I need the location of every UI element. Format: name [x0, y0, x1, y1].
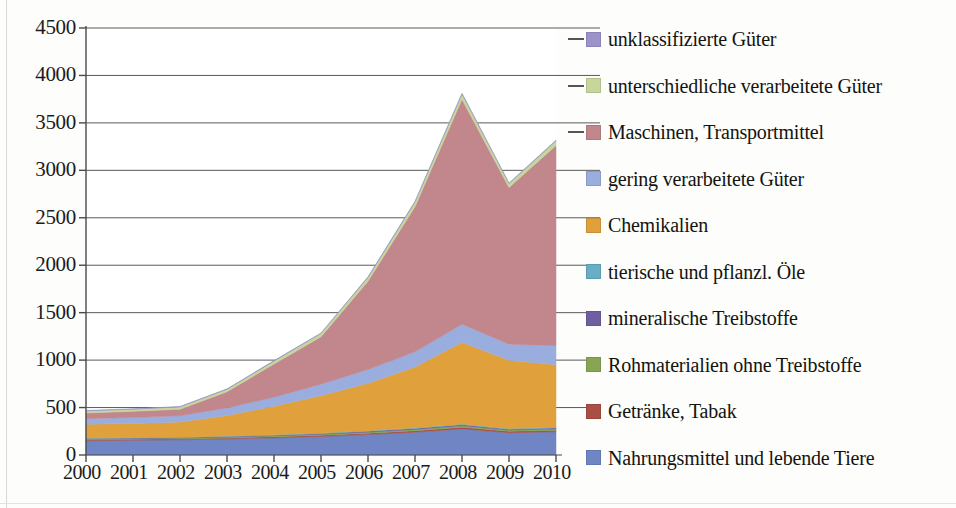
legend-item-label: Maschinen, Transportmittel [608, 122, 824, 142]
y-axis-label: 1500 [14, 302, 76, 323]
y-axis-label: 500 [14, 397, 76, 418]
legend-color-swatch [586, 171, 601, 186]
legend-color-swatch [586, 32, 601, 47]
legend-color-swatch [586, 404, 601, 419]
plot-area [0, 0, 600, 480]
x-axis-label: 2009 [486, 462, 524, 482]
legend-item[interactable]: Nahrungsmittel und lebende Tiere [586, 445, 874, 471]
y-axis-label: 3500 [14, 112, 76, 133]
legend-item[interactable]: unklassifizierte Güter [586, 26, 776, 52]
x-axis-label: 2003 [204, 462, 242, 482]
legend-leader-line [568, 85, 584, 87]
legend-item-label: gering verarbeitete Güter [608, 169, 804, 189]
y-axis-label: 1000 [14, 349, 76, 370]
legend-item-label: Chemikalien [608, 215, 708, 235]
chart-page: 450040003500300025002000150010005000 200… [0, 0, 956, 508]
y-axis-label: 3000 [14, 159, 76, 180]
legend-item-label: tierische und pflanzl. Öle [608, 262, 805, 282]
y-axis-label: 4000 [14, 64, 76, 85]
legend-item-label: unklassifizierte Güter [608, 29, 776, 49]
x-axis-label: 2001 [110, 462, 148, 482]
legend-color-swatch [586, 357, 601, 372]
legend-item[interactable]: mineralische Treibstoffe [586, 305, 798, 331]
x-axis-label: 2005 [298, 462, 336, 482]
legend-item-label: mineralische Treibstoffe [608, 308, 798, 328]
legend-item[interactable]: gering verarbeitete Güter [586, 166, 804, 192]
legend-color-swatch [586, 311, 601, 326]
legend-item-label: Getränke, Tabak [608, 401, 737, 421]
x-axis-label: 2006 [345, 462, 383, 482]
chart-legend: unklassifizierte Güterunterschiedliche v… [586, 8, 956, 486]
legend-leader-line [568, 38, 584, 40]
legend-leader-line [568, 131, 584, 133]
legend-item[interactable]: Maschinen, Transportmittel [586, 119, 824, 145]
y-axis: 450040003500300025002000150010005000 [6, 0, 76, 480]
legend-item-label: unterschiedliche verarbeitete Güter [608, 76, 882, 96]
stacked-area-chart [0, 0, 600, 480]
legend-color-swatch [586, 450, 601, 465]
x-axis-label: 2004 [251, 462, 289, 482]
x-axis-label: 2010 [533, 462, 571, 482]
x-axis: 2000200120022003200420052006200720082009… [0, 462, 600, 496]
legend-color-swatch [586, 78, 601, 93]
legend-item[interactable]: Rohmaterialien ohne Treibstoffe [586, 352, 861, 378]
legend-item-label: Rohmaterialien ohne Treibstoffe [608, 355, 861, 375]
legend-color-swatch [586, 125, 601, 140]
y-axis-label: 4500 [14, 17, 76, 38]
legend-item[interactable]: unterschiedliche verarbeitete Güter [586, 73, 882, 99]
x-axis-label: 2007 [392, 462, 430, 482]
x-axis-label: 2002 [157, 462, 195, 482]
x-axis-label: 2000 [63, 462, 101, 482]
legend-item-label: Nahrungsmittel und lebende Tiere [608, 448, 874, 468]
legend-color-swatch [586, 218, 601, 233]
legend-item[interactable]: Chemikalien [586, 212, 708, 238]
y-axis-label: 2500 [14, 207, 76, 228]
legend-color-swatch [586, 264, 601, 279]
y-axis-label: 2000 [14, 254, 76, 275]
legend-item[interactable]: Getränke, Tabak [586, 398, 737, 424]
x-axis-label: 2008 [439, 462, 477, 482]
scan-edge-bottom [0, 503, 956, 504]
legend-item[interactable]: tierische und pflanzl. Öle [586, 259, 805, 285]
